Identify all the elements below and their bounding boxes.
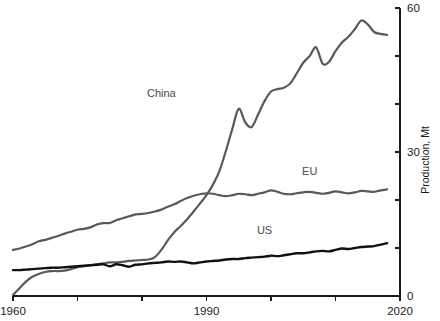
series-line-china bbox=[13, 20, 387, 295]
series-labels-group: ChinaEUUS bbox=[147, 87, 317, 236]
y-axis-title-group: Production, Mt bbox=[419, 126, 431, 194]
y-tick-label-60: 60 bbox=[407, 2, 420, 14]
production-line-chart: 19601990202003060 ChinaEUUS Production, … bbox=[0, 0, 440, 321]
axes-group bbox=[13, 8, 400, 301]
x-tick-label-2020: 2020 bbox=[387, 305, 413, 317]
y-axis-title: Production, Mt bbox=[419, 126, 431, 194]
series-group bbox=[13, 20, 387, 295]
y-tick-label-0: 0 bbox=[407, 290, 413, 302]
series-line-us bbox=[13, 243, 387, 270]
chart-figure: 19601990202003060 ChinaEUUS Production, … bbox=[0, 0, 440, 321]
series-label-china: China bbox=[147, 87, 177, 99]
series-label-us: US bbox=[257, 224, 272, 236]
series-line-eu bbox=[13, 189, 387, 249]
x-tick-label-1960: 1960 bbox=[0, 305, 26, 317]
y-tick-label-30: 30 bbox=[407, 146, 420, 158]
x-tick-label-1990: 1990 bbox=[194, 305, 220, 317]
series-label-eu: EU bbox=[302, 165, 317, 177]
